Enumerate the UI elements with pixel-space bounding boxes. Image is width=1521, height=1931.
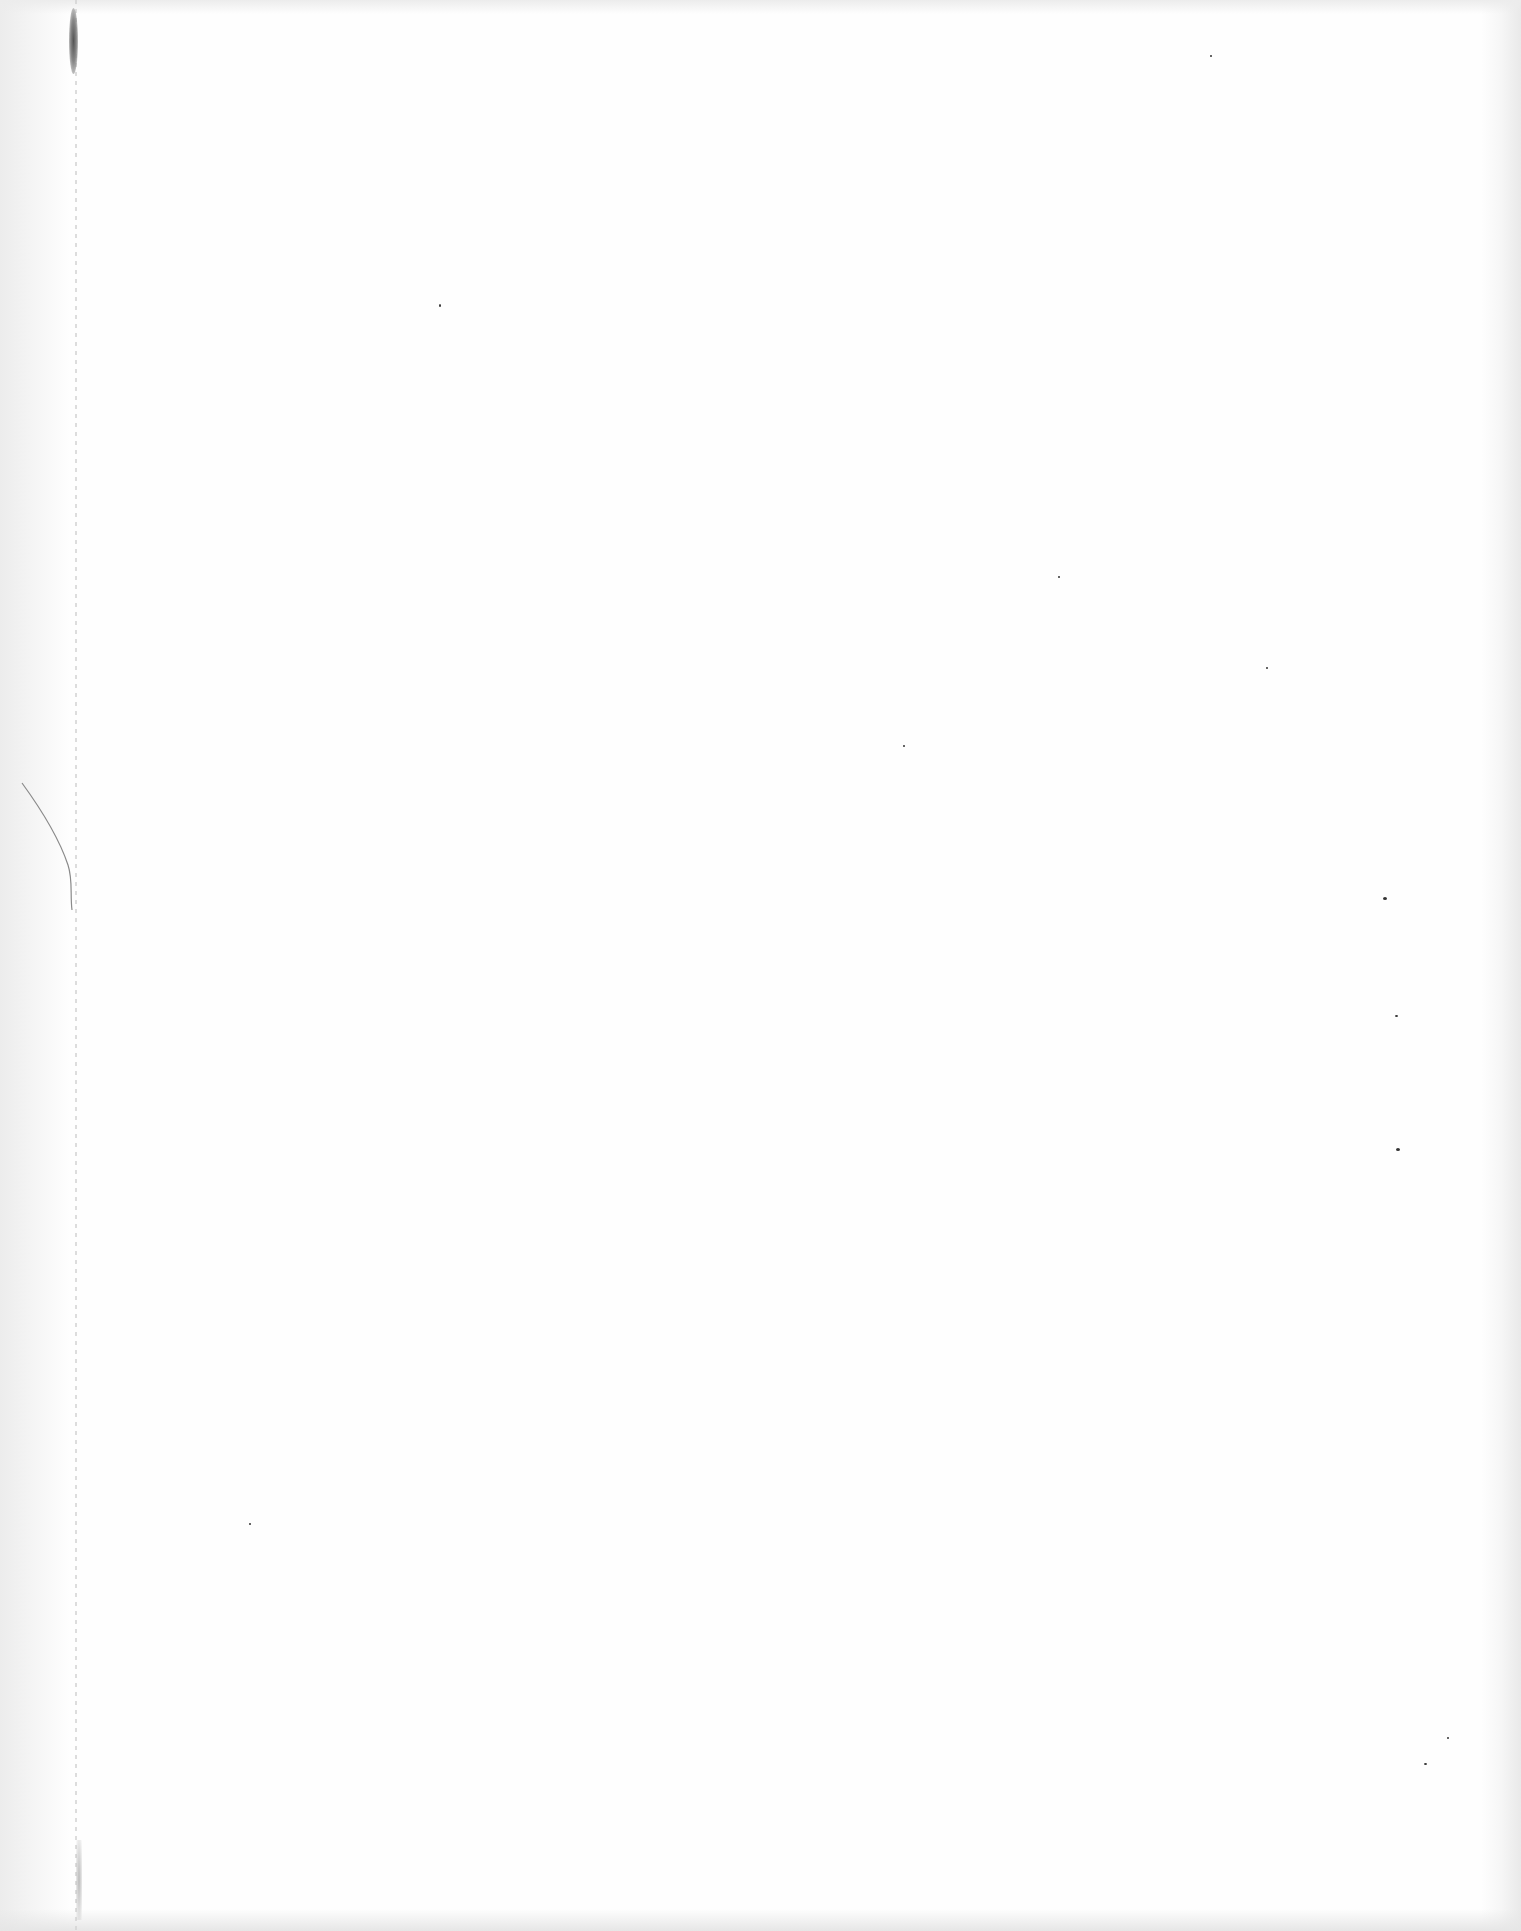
blank-scanned-page: [0, 0, 1521, 1931]
speck-artifact: [1447, 1737, 1449, 1739]
speck-artifact: [249, 1523, 251, 1525]
bottom-edge-shadow: [0, 1909, 1521, 1931]
speck-artifact: [1210, 55, 1212, 57]
speck-artifact: [903, 745, 905, 747]
speck-artifact: [1396, 1148, 1400, 1151]
right-edge-shadow: [1481, 0, 1521, 1931]
binding-smudge-bottom: [76, 1840, 82, 1920]
speck-artifact: [439, 304, 441, 307]
speck-artifact: [1058, 576, 1060, 578]
binding-smudge: [69, 8, 78, 74]
speck-artifact: [1383, 897, 1387, 900]
binding-line: [75, 0, 77, 1931]
top-edge-shadow: [0, 0, 1521, 14]
speck-artifact: [1395, 1015, 1398, 1017]
speck-artifact: [1424, 1763, 1427, 1765]
speck-artifact: [1266, 667, 1268, 669]
left-edge-shadow: [0, 0, 70, 1931]
hair-fiber-artifact: [18, 775, 78, 915]
